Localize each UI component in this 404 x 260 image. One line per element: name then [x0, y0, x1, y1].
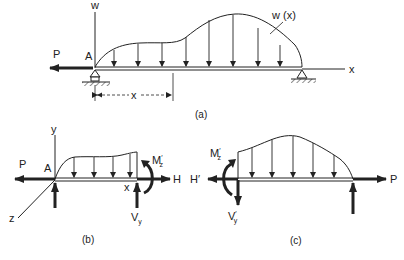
- y-axis-label-b: y: [51, 123, 57, 135]
- force-H-label: H: [173, 173, 181, 185]
- force-P-label-b: P: [19, 158, 26, 170]
- point-A-label-a: A: [85, 50, 93, 62]
- moment-M-label-c: M′z: [210, 147, 221, 161]
- shear-V-label-b: Vy: [131, 211, 142, 226]
- force-H-prime-label: H′: [190, 173, 200, 185]
- z-axis-b: [18, 180, 55, 218]
- caption-a: (a): [195, 109, 207, 120]
- distributed-load-arrows-b: [74, 154, 130, 177]
- x-axis-label: x: [349, 63, 355, 75]
- moment-M-label-b: M′z: [152, 154, 163, 168]
- load-label: w (x): [271, 9, 296, 21]
- figure-b: y z P A H x Vy: [9, 123, 181, 245]
- pin-support-left: [82, 70, 110, 86]
- beam-free-body-diagram: w x w (x) P A: [0, 0, 404, 260]
- z-axis-label-b: z: [9, 212, 15, 224]
- dimension-x-label: x: [131, 89, 137, 101]
- load-curve-c: [238, 136, 353, 179]
- force-P-label-c: P: [390, 173, 397, 185]
- figure-a: w x w (x) P A: [50, 0, 355, 120]
- point-A-label-b: A: [44, 162, 52, 174]
- w-axis-label: w: [90, 0, 99, 11]
- caption-c: (c): [290, 235, 302, 246]
- figure-c: H′ P V′y M′z (c): [190, 136, 397, 246]
- caption-b: (b): [82, 234, 94, 245]
- force-P-label-a: P: [53, 48, 60, 60]
- section-x-label-b: x: [124, 181, 130, 193]
- distributed-load-arrows-a: [114, 15, 280, 66]
- shear-V-prime-label: V′y: [228, 210, 238, 225]
- pin-support-right: [291, 70, 316, 83]
- load-curve-a: [95, 14, 302, 67]
- load-curve-b: [55, 152, 137, 179]
- dimension-arrow-left: [97, 93, 102, 98]
